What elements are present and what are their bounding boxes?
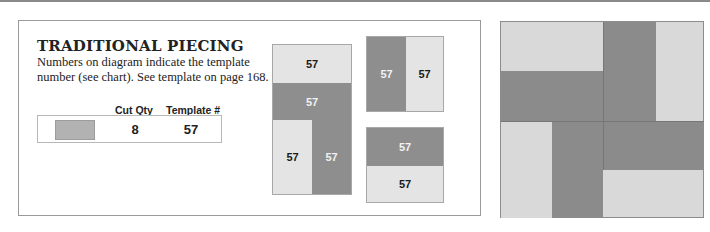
cut-qty-value: 8 [115,122,155,137]
piece-dark: 57 [367,128,443,166]
finished-quilt-block [500,21,704,218]
piece-dark: 57 [273,83,351,120]
quilt-piece-light [656,22,703,121]
fabric-swatch [55,120,95,140]
quilt-piece-light [603,170,703,217]
piece-dark: 57 [312,120,351,194]
piece-light: 57 [406,37,443,111]
top-rule [0,0,710,2]
section-description: Numbers on diagram indicate the template… [37,55,277,85]
quilt-piece-dark [552,121,603,218]
piece-dark: 57 [367,37,406,111]
quilt-piece-dark [501,71,603,121]
quilt-piece-light [501,22,603,71]
quilt-piece-dark [603,121,704,171]
quilt-piece-dark [603,22,657,121]
diagram-left-unit: 57 57 57 57 [272,44,352,195]
piece-light: 57 [273,45,351,83]
template-value: 57 [171,122,211,137]
table-row: 8 57 [37,115,222,143]
diagram-top-right-unit: 57 57 [366,36,444,112]
piece-light: 57 [367,166,443,202]
quilt-piece-light [501,121,552,218]
piece-light: 57 [273,120,312,194]
diagram-bottom-right-unit: 57 57 [366,127,444,203]
section-title: TRADITIONAL PIECING [37,38,244,54]
